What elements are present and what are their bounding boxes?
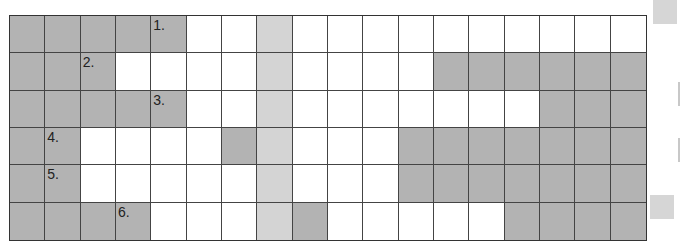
blocked-cell [10, 53, 45, 90]
answer-cell[interactable] [116, 165, 151, 202]
answer-cell[interactable] [328, 91, 363, 128]
answer-cell[interactable] [151, 165, 186, 202]
answer-cell[interactable] [363, 165, 398, 202]
answer-cell[interactable] [116, 53, 151, 90]
blocked-cell [611, 53, 646, 90]
blocked-cell: 5. [45, 165, 80, 202]
answer-cell[interactable] [222, 165, 257, 202]
answer-cell[interactable] [575, 16, 610, 53]
answer-cell[interactable] [187, 203, 222, 240]
answer-cell[interactable] [151, 53, 186, 90]
blocked-cell [434, 128, 469, 165]
clue-number: 1. [153, 17, 165, 33]
clue-number: 3. [153, 92, 165, 108]
answer-cell[interactable] [257, 53, 292, 90]
blocked-cell [45, 203, 80, 240]
answer-cell[interactable] [81, 165, 116, 202]
answer-cell[interactable] [328, 16, 363, 53]
answer-cell[interactable] [328, 53, 363, 90]
answer-cell[interactable] [257, 91, 292, 128]
blocked-cell: 4. [45, 128, 80, 165]
blocked-cell: 3. [151, 91, 186, 128]
answer-cell[interactable] [363, 91, 398, 128]
blocked-cell [469, 53, 504, 90]
answer-cell[interactable] [257, 128, 292, 165]
blocked-cell [10, 16, 45, 53]
blocked-cell [399, 128, 434, 165]
answer-cell[interactable] [81, 128, 116, 165]
answer-cell[interactable] [187, 91, 222, 128]
blocked-cell [575, 128, 610, 165]
legend-swatch-bottom [650, 195, 674, 219]
answer-cell[interactable] [151, 128, 186, 165]
clue-number: 4. [47, 129, 59, 145]
blocked-cell [540, 128, 575, 165]
blocked-cell [575, 165, 610, 202]
blocked-cell [81, 203, 116, 240]
answer-cell[interactable] [399, 16, 434, 53]
answer-cell[interactable] [187, 53, 222, 90]
answer-cell[interactable] [187, 165, 222, 202]
answer-cell[interactable] [257, 16, 292, 53]
answer-cell[interactable] [293, 128, 328, 165]
answer-cell[interactable] [116, 128, 151, 165]
blocked-cell [399, 165, 434, 202]
blocked-cell [505, 165, 540, 202]
blocked-cell [575, 203, 610, 240]
blocked-cell [81, 16, 116, 53]
answer-cell[interactable] [469, 16, 504, 53]
answer-cell[interactable] [293, 165, 328, 202]
answer-cell[interactable] [434, 203, 469, 240]
answer-cell[interactable] [222, 16, 257, 53]
blocked-cell [540, 91, 575, 128]
clue-number: 2. [83, 54, 95, 70]
answer-cell[interactable] [151, 203, 186, 240]
answer-cell[interactable] [399, 91, 434, 128]
answer-cell[interactable] [363, 16, 398, 53]
crossword-grid: 1.2.3.4.5.6. [9, 15, 647, 241]
blocked-cell [10, 128, 45, 165]
blocked-cell: 2. [81, 53, 116, 90]
answer-cell[interactable] [222, 203, 257, 240]
answer-cell[interactable] [469, 91, 504, 128]
answer-cell[interactable] [363, 128, 398, 165]
blocked-cell [10, 203, 45, 240]
blocked-cell [45, 91, 80, 128]
answer-cell[interactable] [399, 203, 434, 240]
blocked-cell [116, 16, 151, 53]
answer-cell[interactable] [434, 91, 469, 128]
answer-cell[interactable] [399, 53, 434, 90]
blocked-cell [10, 165, 45, 202]
answer-cell[interactable] [257, 165, 292, 202]
answer-cell[interactable] [293, 53, 328, 90]
answer-cell[interactable] [187, 128, 222, 165]
answer-cell[interactable] [187, 16, 222, 53]
blocked-cell [45, 53, 80, 90]
answer-cell[interactable] [363, 203, 398, 240]
blocked-cell [469, 165, 504, 202]
answer-cell[interactable] [257, 203, 292, 240]
answer-cell[interactable] [328, 203, 363, 240]
answer-cell[interactable] [434, 16, 469, 53]
answer-cell[interactable] [293, 91, 328, 128]
answer-cell[interactable] [222, 53, 257, 90]
blocked-cell [81, 91, 116, 128]
blocked-cell [434, 53, 469, 90]
blocked-cell [575, 91, 610, 128]
answer-cell[interactable] [469, 203, 504, 240]
blocked-cell [611, 165, 646, 202]
answer-cell[interactable] [505, 91, 540, 128]
blocked-cell: 6. [116, 203, 151, 240]
answer-cell[interactable] [611, 16, 646, 53]
clue-number: 6. [118, 204, 130, 220]
answer-cell[interactable] [328, 165, 363, 202]
answer-cell[interactable] [328, 128, 363, 165]
blocked-cell [116, 91, 151, 128]
answer-cell[interactable] [222, 91, 257, 128]
answer-cell[interactable] [363, 53, 398, 90]
answer-cell[interactable] [540, 16, 575, 53]
answer-cell[interactable] [293, 16, 328, 53]
blocked-cell [540, 165, 575, 202]
blocked-cell [45, 16, 80, 53]
answer-cell[interactable] [505, 16, 540, 53]
